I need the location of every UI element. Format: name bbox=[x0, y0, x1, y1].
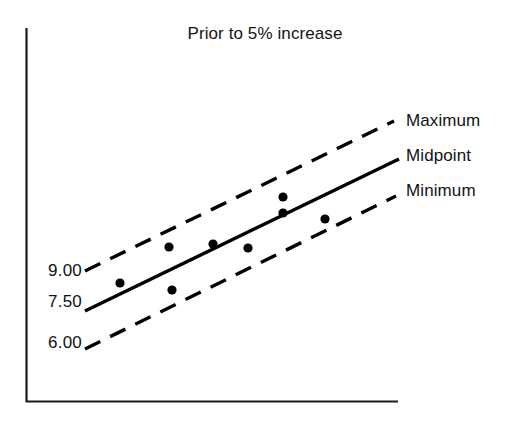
ytick-label-9: 9.00 bbox=[26, 261, 82, 281]
data-point bbox=[164, 242, 173, 251]
legend-label-maximum: Maximum bbox=[406, 111, 480, 131]
series-line-maximum bbox=[85, 121, 394, 271]
ytick-label-7-5: 7.50 bbox=[26, 292, 82, 312]
data-point bbox=[115, 278, 124, 287]
data-point bbox=[320, 214, 329, 223]
chart-title: Prior to 5% increase bbox=[120, 24, 410, 44]
data-point bbox=[243, 243, 252, 252]
data-point bbox=[208, 239, 217, 248]
ytick-label-6: 6.00 bbox=[26, 333, 82, 353]
data-point bbox=[278, 192, 287, 201]
series-line-minimum bbox=[85, 196, 396, 349]
legend-label-minimum: Minimum bbox=[406, 181, 476, 201]
data-point bbox=[278, 208, 287, 217]
data-point bbox=[167, 285, 176, 294]
legend-label-midpoint: Midpoint bbox=[406, 146, 471, 166]
chart-figure: Prior to 5% increase 9.00 7.50 6.00 Maxi… bbox=[0, 0, 525, 428]
chart-canvas bbox=[0, 0, 525, 428]
series-line-midpoint bbox=[85, 159, 399, 311]
